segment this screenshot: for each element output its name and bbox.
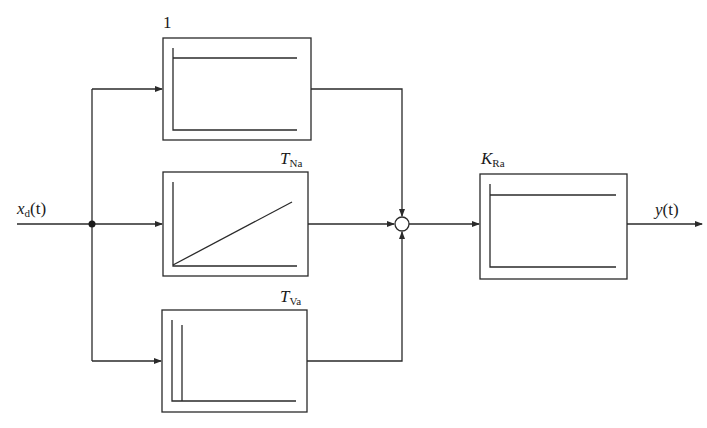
input-label: xd(t) <box>17 200 46 219</box>
d-block <box>162 310 307 412</box>
p-block <box>163 38 311 140</box>
d-block-label: TVa <box>280 288 301 307</box>
i-block-ramp-response <box>173 182 297 266</box>
gain-block <box>480 174 627 279</box>
p-block-step-response <box>173 48 297 130</box>
block-diagram-canvas <box>0 0 707 428</box>
d-block-impulse-response <box>172 320 296 401</box>
i-block-label: TNa <box>280 150 302 169</box>
p-block-label: 1 <box>163 14 172 31</box>
branch-point <box>89 221 96 228</box>
summing-junction <box>395 217 409 231</box>
output-label: y(t) <box>655 201 679 218</box>
gain-block-step-response <box>490 184 616 267</box>
d-output-line <box>307 232 402 361</box>
i-block <box>163 172 308 276</box>
gain-block-label: KRa <box>481 150 505 169</box>
p-output-line <box>311 89 402 216</box>
